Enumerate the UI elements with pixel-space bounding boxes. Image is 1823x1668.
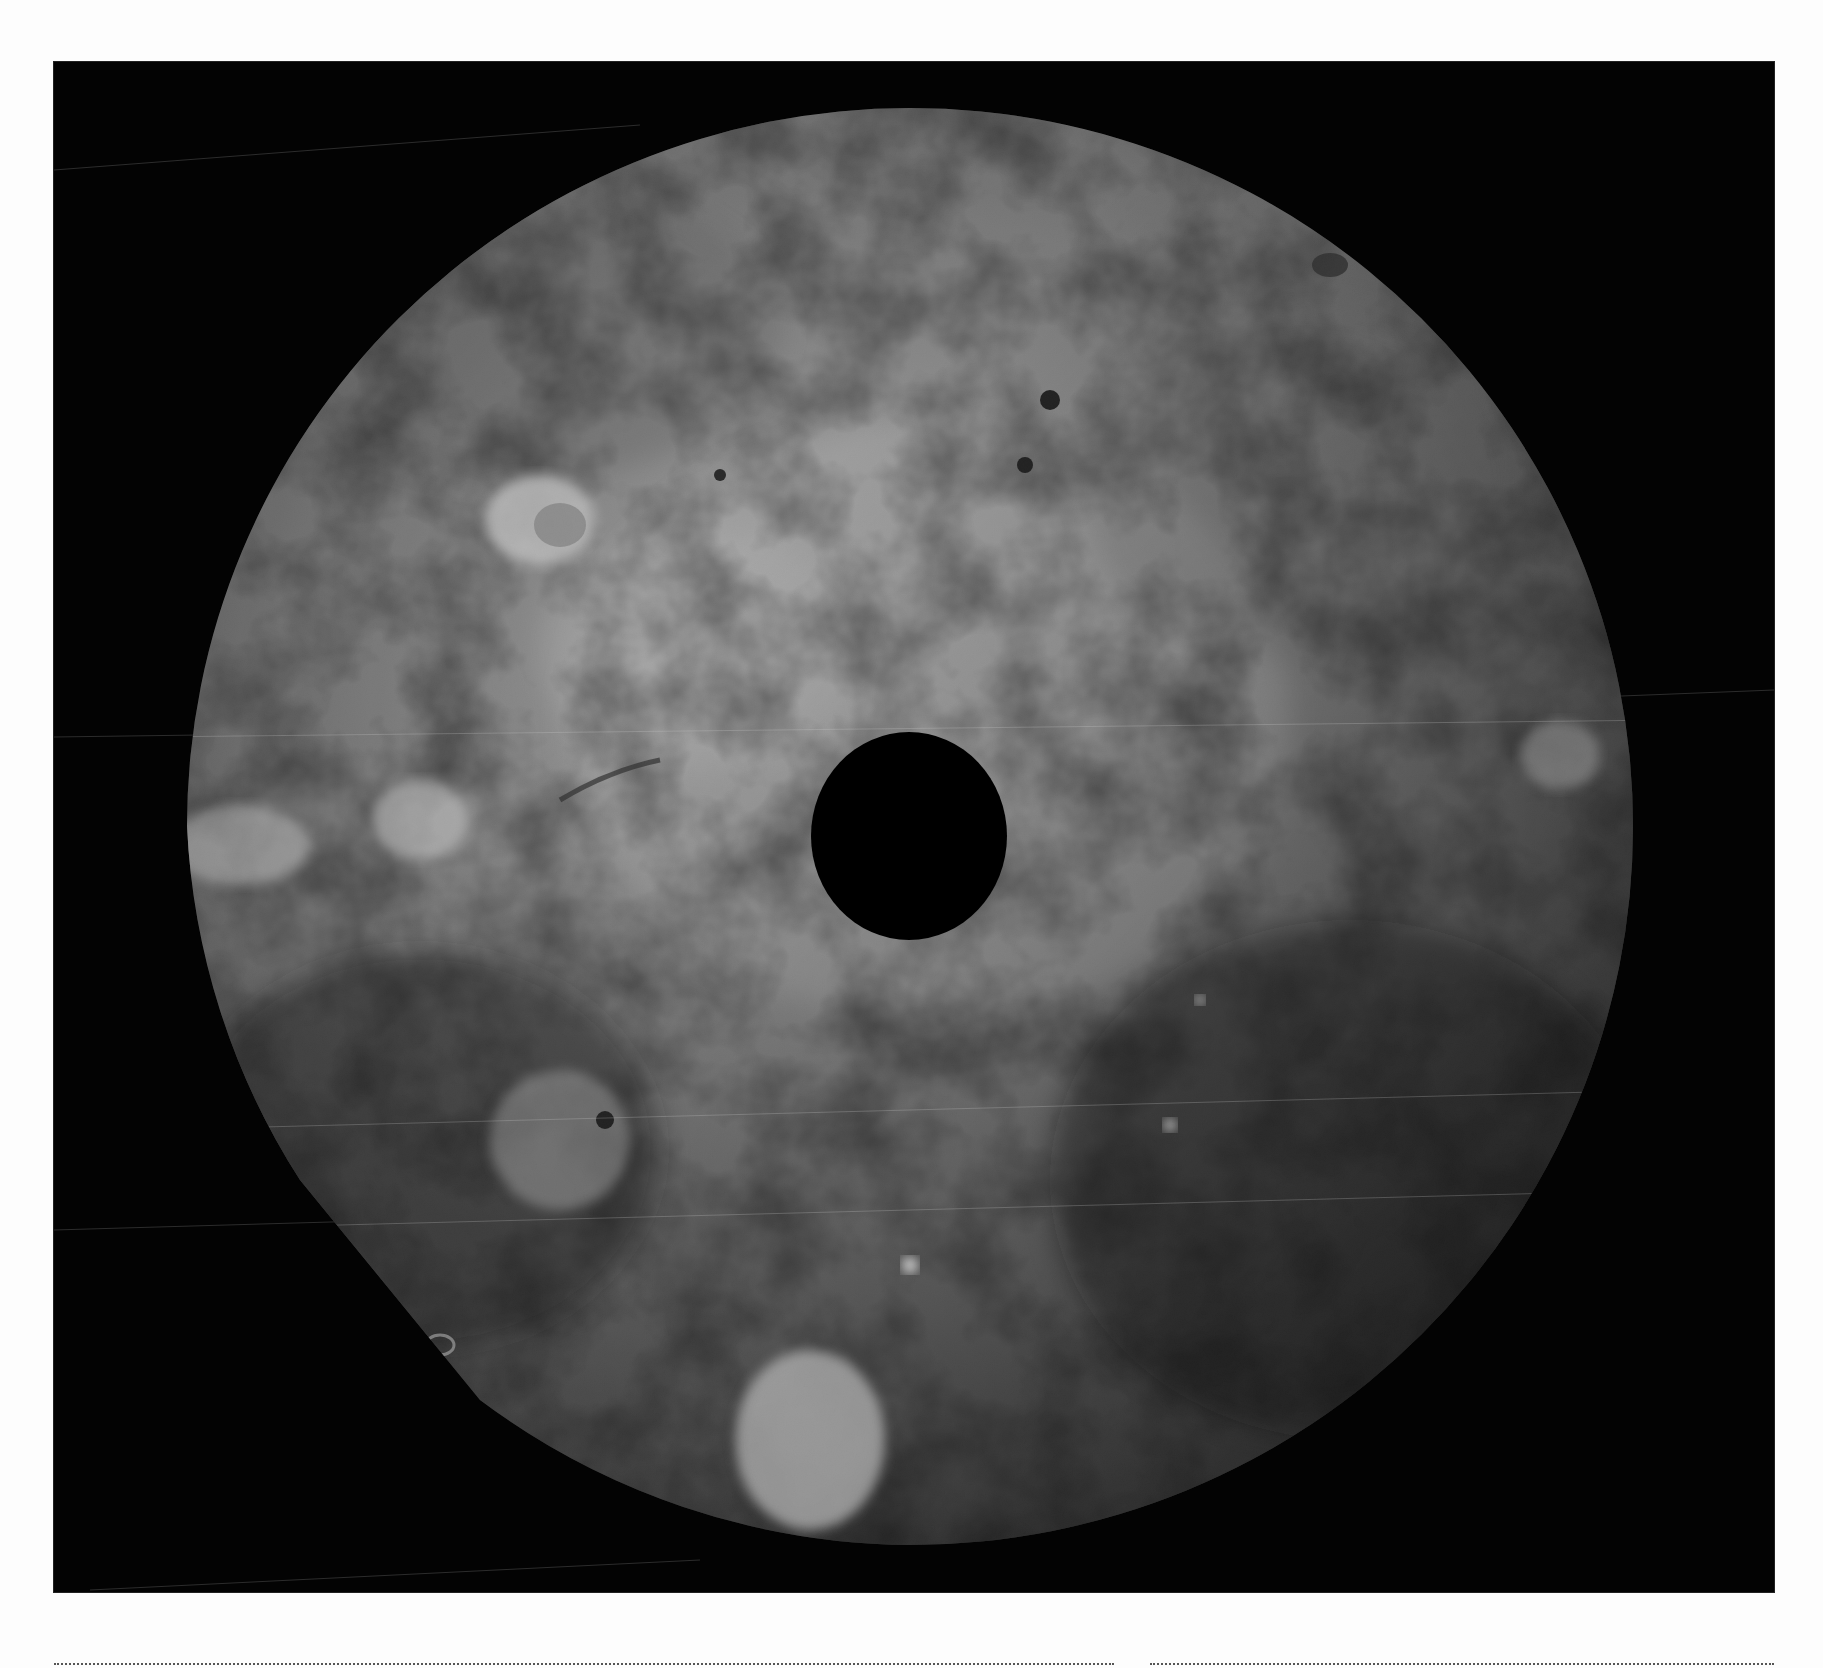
dotted-rule-right	[1150, 1663, 1774, 1665]
dotted-rule-left	[54, 1663, 1114, 1665]
scanned-page	[0, 0, 1823, 1668]
figure-frame	[54, 62, 1774, 1592]
polar-data-gap	[811, 732, 1007, 940]
polar-mosaic-image	[54, 62, 1774, 1592]
